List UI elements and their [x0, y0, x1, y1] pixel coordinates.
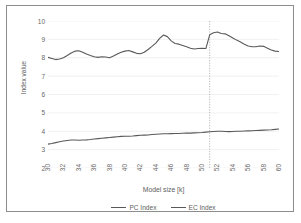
legend-entry[interactable]: PC Index: [111, 204, 156, 211]
plot-area: [48, 21, 279, 168]
legend-line-swatch: [111, 207, 126, 208]
y-tick-label: 8: [21, 54, 45, 61]
y-tick-label: 2: [21, 165, 45, 172]
x-tick-label: 50: [198, 164, 206, 182]
y-tick-label: 6: [21, 91, 45, 98]
chart-legend: PC IndexEC Index: [48, 200, 279, 214]
x-tick-label: 36: [90, 164, 98, 182]
x-tick-label: 30: [44, 164, 52, 182]
y-tick-label: 9: [21, 36, 45, 43]
plot-svg: [48, 21, 279, 168]
x-tick-label: 56: [244, 164, 252, 182]
legend-line-swatch: [171, 207, 186, 208]
x-tick-label: 40: [121, 164, 129, 182]
x-tick-label: 38: [106, 164, 114, 182]
x-tick-label: 32: [59, 164, 67, 182]
y-tick-label: 10: [21, 18, 45, 25]
x-tick-label: 42: [136, 164, 144, 182]
legend-label: PC Index: [129, 204, 156, 211]
x-tick-label: 48: [183, 164, 191, 182]
y-tick-label: 5: [21, 109, 45, 116]
series-line-pc-index: [48, 32, 279, 60]
y-tick-label: 3: [21, 146, 45, 153]
x-tick-label: 60: [275, 164, 283, 182]
x-tick-label: 34: [75, 164, 83, 182]
legend-label: EC Index: [189, 204, 216, 211]
figure-border: Index value 2345678910 30323436384042444…: [6, 5, 294, 212]
x-tick-label: 52: [213, 164, 221, 182]
x-axis-title: Model size [k]: [48, 186, 279, 193]
x-axis-ticks: 30323436384042444648505254565860: [48, 169, 279, 187]
x-tick-label: 44: [152, 164, 160, 182]
series-lines: [48, 32, 279, 144]
chart-figure: Index value 2345678910 30323436384042444…: [0, 0, 301, 223]
y-tick-label: 7: [21, 73, 45, 80]
gridlines: [48, 21, 279, 168]
y-axis-ticks: 2345678910: [18, 21, 45, 168]
y-tick-label: 4: [21, 128, 45, 135]
x-tick-label: 58: [260, 164, 268, 182]
legend-entry[interactable]: EC Index: [171, 204, 216, 211]
x-tick-label: 46: [167, 164, 175, 182]
x-tick-label: 54: [229, 164, 237, 182]
